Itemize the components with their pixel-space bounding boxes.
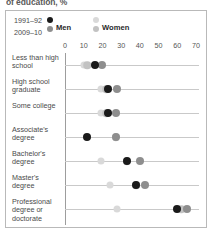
legend-row-new: 2009–10 [14, 28, 48, 37]
x-tick-40: 40 [136, 41, 144, 50]
row-track [65, 89, 199, 90]
x-tick-60: 60 [173, 41, 181, 50]
data-point [97, 158, 104, 165]
row-label: Master's degree [12, 174, 62, 191]
data-point [91, 61, 99, 69]
legend-year-old: 1991–92 [14, 16, 48, 25]
legend-swatches-men [47, 17, 53, 32]
plot-area: 010203040506070 Less than high schoolHig… [6, 41, 208, 227]
data-point [132, 181, 140, 189]
x-tick-20: 20 [98, 41, 106, 50]
row-label: Less than high school [12, 54, 62, 71]
chart-row: Master's degree [6, 174, 208, 198]
data-point [112, 109, 120, 117]
data-point [83, 133, 91, 141]
row-label: High school graduate [12, 78, 62, 95]
x-tick-0: 0 [63, 41, 67, 50]
legend-year-new: 2009–10 [14, 28, 48, 37]
legend-dot-women-new [93, 26, 99, 32]
row-label: Professional degree or doctorate [12, 198, 62, 223]
x-tick-70: 70 [192, 41, 200, 50]
legend-label-men: Men [56, 23, 71, 32]
clipped-caption: of education, % [6, 0, 206, 8]
x-tick-30: 30 [117, 41, 125, 50]
row-label: Some college [12, 102, 62, 110]
data-point [104, 85, 112, 93]
data-point [113, 85, 121, 93]
row-label: Associate's degree [12, 126, 62, 143]
chart-panel: 1991–92 2009–10 Men Women 01020304050607… [5, 10, 207, 228]
data-point [123, 157, 131, 165]
chart-row: Bachelor's degree [6, 150, 208, 174]
x-tick-50: 50 [155, 41, 163, 50]
legend-dot-men-old [47, 17, 53, 23]
data-point [106, 182, 113, 189]
row-label: Bachelor's degree [12, 150, 62, 167]
data-point [141, 181, 149, 189]
x-axis-ticks: 010203040506070 [6, 41, 208, 53]
chart-row: Less than high school [6, 54, 208, 78]
chart-legend: 1991–92 2009–10 Men Women [14, 16, 204, 40]
chart-row: Some college [6, 102, 208, 126]
row-track [65, 113, 199, 114]
legend-label-women: Women [102, 23, 129, 32]
chart-row: Associate's degree [6, 126, 208, 150]
legend-dot-women-old [93, 17, 99, 23]
data-point [114, 206, 121, 213]
data-point [98, 61, 106, 69]
data-point [183, 205, 191, 213]
data-point [104, 109, 112, 117]
x-tick-10: 10 [80, 41, 88, 50]
chart-root: of education, % 1991–92 2009–10 Men W [0, 0, 214, 233]
category-rows: Less than high schoolHigh school graduat… [6, 54, 208, 222]
legend-row-old: 1991–92 [14, 16, 48, 25]
data-point [112, 133, 120, 141]
row-track [65, 161, 199, 162]
chart-row: High school graduate [6, 78, 208, 102]
legend-dot-men-new [47, 26, 53, 32]
chart-row: Professional degree or doctorate [6, 198, 208, 222]
legend-swatches-women [93, 17, 99, 32]
data-point [136, 157, 144, 165]
legend-year-labels: 1991–92 2009–10 [14, 16, 48, 37]
data-point [173, 205, 181, 213]
